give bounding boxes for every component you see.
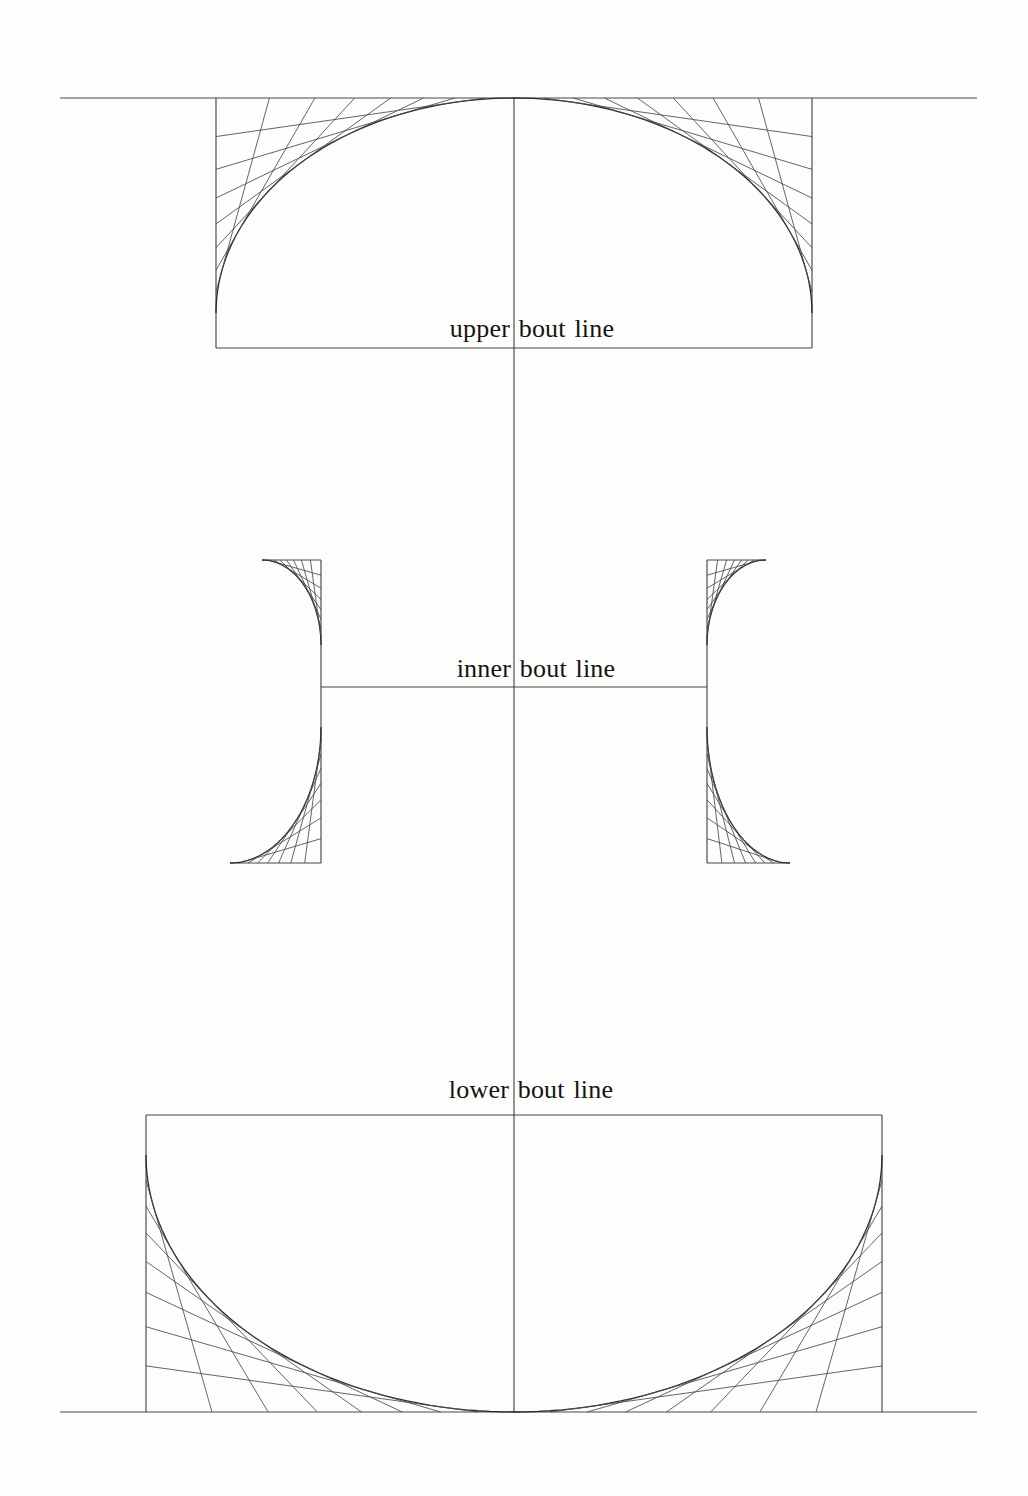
upper-bout-left-envelope-tangent-6: [216, 98, 315, 270]
upper-bout-right-envelope-tangent-5: [673, 98, 812, 248]
upper-bout-right-envelope-tangent-1: [543, 98, 812, 137]
lower-bout-right-envelope-tangent-6: [760, 1206, 882, 1412]
lower-bout-left-envelope-tangent-1: [146, 1366, 478, 1412]
upper-bout-left-envelope-tangent-7: [216, 98, 269, 292]
cbout-left-bottom-envelope-tangent-5: [279, 768, 321, 863]
lower-bout-right-envelope-tangent-5: [711, 1233, 882, 1412]
lower-bout-right-envelope-tangent-1: [550, 1366, 882, 1412]
upper-bout-right-envelope-tangent-7: [759, 98, 812, 292]
lower-bout-left-envelope-tangent-6: [146, 1206, 268, 1412]
upper-bout-left-envelope-tangent-2: [216, 98, 455, 169]
cbout-right-top-envelope-tangent-5: [707, 560, 734, 619]
upper-bout-label: upper bout line: [450, 316, 614, 342]
upper-bout-left-envelope-tangent-1: [216, 98, 485, 137]
upper-bout-left-envelope-tangent-3: [216, 98, 424, 198]
lower-bout-right-envelope-tangent-3: [626, 1292, 882, 1412]
lower-bout-left-envelope-tangent-7: [146, 1180, 212, 1412]
lower-bout-left-envelope-tangent-3: [146, 1292, 402, 1412]
inner-bout-label: inner bout line: [457, 656, 616, 682]
lower-bout-right-envelope-tangent-2: [587, 1327, 882, 1412]
upper-bout-right-envelope-tangent-6: [713, 98, 812, 270]
lower-bout-left-envelope-tangent-5: [146, 1233, 317, 1412]
upper-bout-left-envelope-tangent-5: [216, 98, 355, 248]
upper-bout-left-envelope-tangent-4: [216, 98, 391, 224]
upper-bout-right-envelope-tangent-4: [637, 98, 812, 224]
lower-bout-left-envelope-tangent-4: [146, 1261, 362, 1412]
upper-bout-right-envelope-tangent-2: [573, 98, 812, 169]
cbout-left-top-envelope-tangent-5: [294, 560, 321, 619]
lower-bout-right-envelope-tangent-7: [816, 1180, 882, 1412]
cbout-left-bottom-envelope-tangent-6: [291, 754, 321, 863]
cbout-right-bottom-envelope-tangent-5: [707, 768, 746, 863]
lower-bout-right-envelope-tangent-4: [666, 1261, 882, 1412]
cbout-right-bottom-envelope-tangent-6: [707, 754, 735, 863]
bout-line-construction-figure: [0, 0, 1028, 1496]
scanned-page: upper bout line inner bout line lower bo…: [0, 0, 1028, 1496]
lower-bout-left-envelope-tangent-2: [146, 1327, 441, 1412]
lower-bout-label: lower bout line: [449, 1077, 613, 1103]
upper-bout-right-envelope-tangent-3: [604, 98, 812, 198]
